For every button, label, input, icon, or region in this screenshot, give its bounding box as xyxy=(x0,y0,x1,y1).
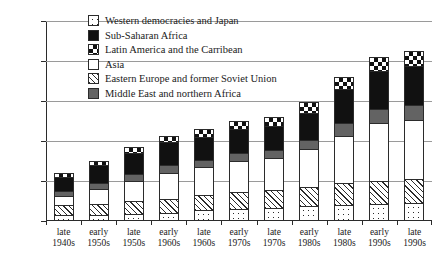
bar-segment xyxy=(160,174,178,200)
bar-segment xyxy=(195,138,213,161)
x-label-line1: early xyxy=(151,227,186,238)
x-label-line1: early xyxy=(292,227,327,238)
bar-segment xyxy=(265,151,283,159)
bar-late-1970s xyxy=(264,117,284,221)
bar-segment xyxy=(405,52,423,67)
bar-slot xyxy=(362,21,397,221)
bar-segment xyxy=(160,166,178,173)
x-tick xyxy=(81,221,116,226)
x-label-line1: early xyxy=(81,227,116,238)
bar-segment xyxy=(55,178,73,192)
x-label-line2: 1980s xyxy=(292,238,327,249)
x-tick xyxy=(327,221,362,226)
bar-segment xyxy=(405,180,423,204)
x-label-line2: 1990s xyxy=(362,238,397,249)
legend-label: Western democracies and Japan xyxy=(105,15,239,26)
x-label-line1: early xyxy=(221,227,256,238)
bar-segment xyxy=(265,209,283,220)
bar-segment xyxy=(370,58,388,72)
bar-segment xyxy=(405,121,423,180)
x-label-line2: 1950s xyxy=(81,238,116,249)
bar-early-1960s xyxy=(159,136,179,221)
bar-segment xyxy=(405,106,423,121)
bar-segment xyxy=(195,211,213,220)
bar-segment xyxy=(265,118,283,127)
bar-late-1940s xyxy=(54,173,74,221)
x-label-line2: 1960s xyxy=(186,238,221,249)
bar-late-1980s xyxy=(334,77,354,221)
bar-segment xyxy=(230,193,248,210)
bar-early-1950s xyxy=(89,161,109,221)
x-label-line1: late xyxy=(327,227,362,238)
x-axis-label-2: late1950s xyxy=(116,227,151,249)
bar-segment xyxy=(265,159,283,191)
x-axis-label-3: early1960s xyxy=(151,227,186,249)
legend-swatch-hatch xyxy=(88,73,99,84)
bar-segment xyxy=(125,202,143,215)
bar-segment xyxy=(230,210,248,220)
bar-segment xyxy=(90,205,108,216)
bar-segment xyxy=(230,154,248,162)
bar-slot xyxy=(292,21,327,221)
bar-segment xyxy=(300,103,318,113)
bar-late-1950s xyxy=(124,147,144,221)
bar-early-1970s xyxy=(229,121,249,221)
x-axis-label-6: late1970s xyxy=(257,227,292,249)
bar-segment xyxy=(335,78,353,91)
bar-segment xyxy=(370,72,388,110)
x-axis-label-10: late1990s xyxy=(397,227,432,249)
legend-label: Sub-Saharan Africa xyxy=(105,30,188,41)
x-tick xyxy=(116,221,151,226)
x-label-line1: late xyxy=(116,227,151,238)
legend-swatch-check xyxy=(88,44,99,55)
x-axis-label-9: early1990s xyxy=(362,227,397,249)
bar-early-1980s xyxy=(299,102,319,221)
bar-late-1960s xyxy=(194,129,214,221)
legend-item-1: Sub-Saharan Africa xyxy=(88,29,277,42)
bar-segment xyxy=(195,130,213,137)
bar-segment xyxy=(230,122,248,131)
bar-segment xyxy=(160,143,178,166)
chart-legend: Western democracies and JapanSub-Saharan… xyxy=(88,14,277,101)
bar-early-1990s xyxy=(369,57,389,221)
x-axis-label-7: early1980s xyxy=(292,227,327,249)
legend-label: Asia xyxy=(105,59,124,70)
x-tick xyxy=(362,221,397,226)
x-label-line2: 1990s xyxy=(397,238,432,249)
bar-segment xyxy=(265,191,283,209)
bar-segment xyxy=(90,216,108,220)
bar-segment xyxy=(90,166,108,184)
bar-segment xyxy=(300,114,318,141)
bar-late-1990s xyxy=(404,51,424,221)
x-label-line2: 1970s xyxy=(257,238,292,249)
bar-segment xyxy=(160,214,178,220)
bar-segment xyxy=(335,137,353,184)
x-label-line2: 1960s xyxy=(151,238,186,249)
x-label-line1: late xyxy=(186,227,221,238)
bar-segment xyxy=(370,124,388,182)
legend-label: Eastern Europe and former Soviet Union xyxy=(105,73,277,84)
legend-item-5: Middle East and northern Africa xyxy=(88,87,277,100)
x-axis-label-4: late1960s xyxy=(186,227,221,249)
bar-segment xyxy=(125,182,143,203)
x-label-line2: 1980s xyxy=(327,238,362,249)
x-axis-labels: late1940searly1950slate1950searly1960sla… xyxy=(46,227,432,249)
legend-swatch-white xyxy=(88,59,99,70)
bar-segment xyxy=(230,162,248,192)
legend-item-2: Latin America and the Carribean xyxy=(88,43,277,56)
bar-segment xyxy=(125,215,143,220)
legend-swatch-dots xyxy=(88,15,99,26)
bar-segment xyxy=(300,141,318,151)
bar-segment xyxy=(370,205,388,220)
x-tick xyxy=(257,221,292,226)
legend-item-4: Eastern Europe and former Soviet Union xyxy=(88,72,277,85)
stacked-bar-chart: 050100150200250 late1940searly1950slate1… xyxy=(0,0,446,265)
x-tick xyxy=(292,221,327,226)
x-label-line1: late xyxy=(397,227,432,238)
x-label-line1: late xyxy=(257,227,292,238)
legend-label: Middle East and northern Africa xyxy=(105,88,241,99)
bar-segment xyxy=(90,190,108,205)
x-tick xyxy=(221,221,256,226)
bar-slot xyxy=(327,21,362,221)
bar-segment xyxy=(335,90,353,124)
